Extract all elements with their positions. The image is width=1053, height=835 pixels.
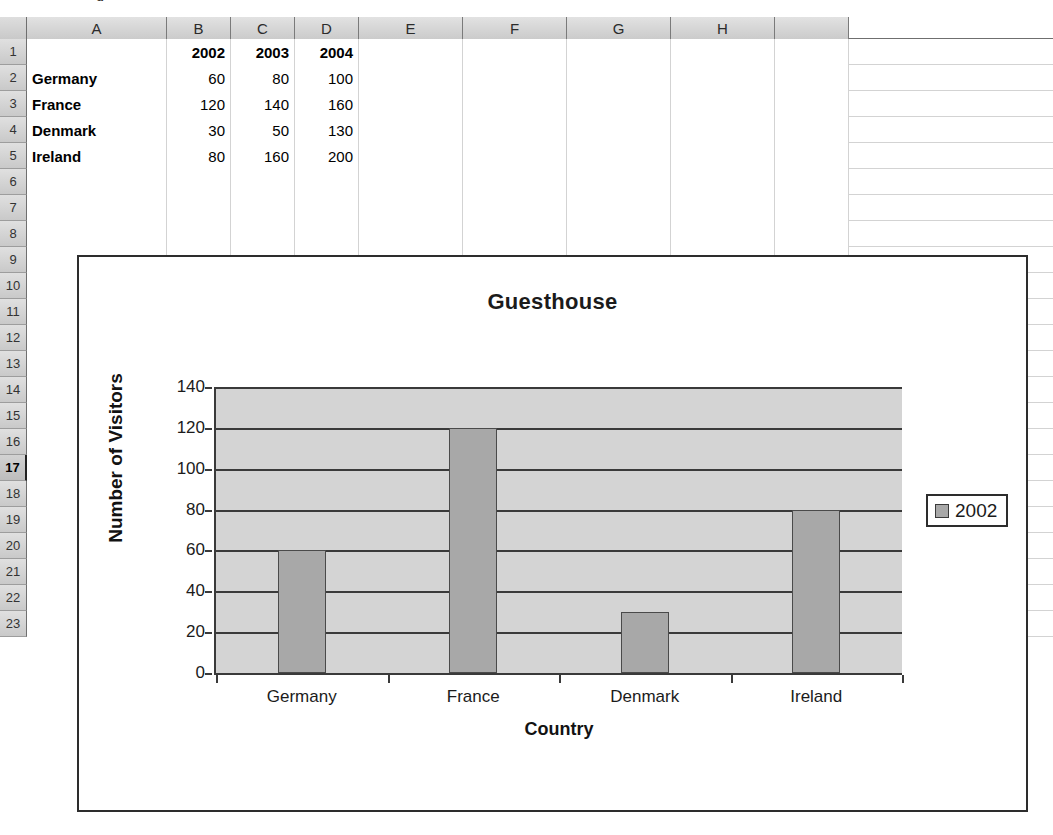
cell-C6[interactable] bbox=[231, 169, 295, 195]
table-row[interactable]: Denmark3050130 bbox=[27, 117, 1053, 143]
row-header-18[interactable]: 18 bbox=[0, 481, 27, 507]
cell-E3[interactable] bbox=[359, 91, 463, 117]
cell-A4[interactable]: Denmark bbox=[27, 117, 167, 143]
row-header-17[interactable]: 17 bbox=[0, 455, 27, 481]
cell-F3[interactable] bbox=[463, 91, 567, 117]
row-header-10[interactable]: 10 bbox=[0, 273, 27, 299]
cell-H5[interactable] bbox=[671, 143, 775, 169]
cell-B4[interactable]: 30 bbox=[167, 117, 231, 143]
cell-A7[interactable] bbox=[27, 195, 167, 221]
row-header-16[interactable]: 16 bbox=[0, 429, 27, 455]
row-header-11[interactable]: 11 bbox=[0, 299, 27, 325]
cell-F5[interactable] bbox=[463, 143, 567, 169]
cell-E7[interactable] bbox=[359, 195, 463, 221]
cell-D2[interactable]: 100 bbox=[295, 65, 359, 91]
cell-D8[interactable] bbox=[295, 221, 359, 247]
cell-B6[interactable] bbox=[167, 169, 231, 195]
cell-G3[interactable] bbox=[567, 91, 671, 117]
cell-A6[interactable] bbox=[27, 169, 167, 195]
column-header-C[interactable]: C bbox=[231, 17, 295, 39]
cell-D3[interactable]: 160 bbox=[295, 91, 359, 117]
row-header-20[interactable]: 20 bbox=[0, 533, 27, 559]
row-header-13[interactable]: 13 bbox=[0, 351, 27, 377]
table-row[interactable]: Germany6080100 bbox=[27, 65, 1053, 91]
cell-H2[interactable] bbox=[671, 65, 775, 91]
cell-C1[interactable]: 2003 bbox=[231, 39, 295, 65]
cell-B5[interactable]: 80 bbox=[167, 143, 231, 169]
cell-E4[interactable] bbox=[359, 117, 463, 143]
cell-X5[interactable] bbox=[775, 143, 849, 169]
row-header-3[interactable]: 3 bbox=[0, 91, 27, 117]
cell-X4[interactable] bbox=[775, 117, 849, 143]
cell-X8[interactable] bbox=[775, 221, 849, 247]
cell-X1[interactable] bbox=[775, 39, 849, 65]
row-header-15[interactable]: 15 bbox=[0, 403, 27, 429]
embedded-chart[interactable]: Guesthouse Number of Visitors 0204060801… bbox=[77, 255, 1028, 812]
row-header-2[interactable]: 2 bbox=[0, 65, 27, 91]
row-header-21[interactable]: 21 bbox=[0, 559, 27, 585]
column-header-E[interactable]: E bbox=[359, 17, 463, 39]
row-header-19[interactable]: 19 bbox=[0, 507, 27, 533]
column-header-D[interactable]: D bbox=[295, 17, 359, 39]
cell-E2[interactable] bbox=[359, 65, 463, 91]
column-header-extra[interactable] bbox=[775, 17, 849, 39]
bar-germany[interactable] bbox=[278, 550, 326, 673]
column-header-H[interactable]: H bbox=[671, 17, 775, 39]
cell-H1[interactable] bbox=[671, 39, 775, 65]
row-header-12[interactable]: 12 bbox=[0, 325, 27, 351]
column-header-B[interactable]: B bbox=[167, 17, 231, 39]
table-row[interactable] bbox=[27, 195, 1053, 221]
cell-D5[interactable]: 200 bbox=[295, 143, 359, 169]
cell-H6[interactable] bbox=[671, 169, 775, 195]
cell-A1[interactable] bbox=[27, 39, 167, 65]
row-header-8[interactable]: 8 bbox=[0, 221, 27, 247]
table-row[interactable] bbox=[27, 221, 1053, 247]
cell-D1[interactable]: 2004 bbox=[295, 39, 359, 65]
cell-A2[interactable]: Germany bbox=[27, 65, 167, 91]
column-header-G[interactable]: G bbox=[567, 17, 671, 39]
cell-G2[interactable] bbox=[567, 65, 671, 91]
bar-france[interactable] bbox=[449, 428, 497, 673]
cell-F2[interactable] bbox=[463, 65, 567, 91]
table-row[interactable] bbox=[27, 169, 1053, 195]
cell-H4[interactable] bbox=[671, 117, 775, 143]
row-header-14[interactable]: 14 bbox=[0, 377, 27, 403]
cell-B3[interactable]: 120 bbox=[167, 91, 231, 117]
row-header-gutter[interactable]: 1234567891011121314151617181920212223 bbox=[0, 39, 27, 637]
column-header-row[interactable]: ABCDEFGH bbox=[0, 17, 1053, 39]
cell-B8[interactable] bbox=[167, 221, 231, 247]
cell-A8[interactable] bbox=[27, 221, 167, 247]
row-header-1[interactable]: 1 bbox=[0, 39, 27, 65]
select-all-corner[interactable] bbox=[0, 17, 27, 39]
cell-G4[interactable] bbox=[567, 117, 671, 143]
chart-legend[interactable]: 2002 bbox=[926, 494, 1008, 527]
cell-X6[interactable] bbox=[775, 169, 849, 195]
cell-C8[interactable] bbox=[231, 221, 295, 247]
cell-G7[interactable] bbox=[567, 195, 671, 221]
cell-G5[interactable] bbox=[567, 143, 671, 169]
cell-X2[interactable] bbox=[775, 65, 849, 91]
cell-C3[interactable]: 140 bbox=[231, 91, 295, 117]
cell-B7[interactable] bbox=[167, 195, 231, 221]
cell-G8[interactable] bbox=[567, 221, 671, 247]
cell-C4[interactable]: 50 bbox=[231, 117, 295, 143]
cell-H7[interactable] bbox=[671, 195, 775, 221]
cell-C5[interactable]: 160 bbox=[231, 143, 295, 169]
cell-G1[interactable] bbox=[567, 39, 671, 65]
cell-F1[interactable] bbox=[463, 39, 567, 65]
table-row[interactable]: France120140160 bbox=[27, 91, 1053, 117]
cell-F8[interactable] bbox=[463, 221, 567, 247]
cell-H8[interactable] bbox=[671, 221, 775, 247]
cell-A5[interactable]: Ireland bbox=[27, 143, 167, 169]
cell-E1[interactable] bbox=[359, 39, 463, 65]
cell-C2[interactable]: 80 bbox=[231, 65, 295, 91]
cell-F6[interactable] bbox=[463, 169, 567, 195]
cell-A3[interactable]: France bbox=[27, 91, 167, 117]
row-header-4[interactable]: 4 bbox=[0, 117, 27, 143]
row-header-6[interactable]: 6 bbox=[0, 169, 27, 195]
cell-X3[interactable] bbox=[775, 91, 849, 117]
cell-F4[interactable] bbox=[463, 117, 567, 143]
row-header-7[interactable]: 7 bbox=[0, 195, 27, 221]
row-header-23[interactable]: 23 bbox=[0, 611, 27, 637]
column-header-A[interactable]: A bbox=[27, 17, 167, 39]
